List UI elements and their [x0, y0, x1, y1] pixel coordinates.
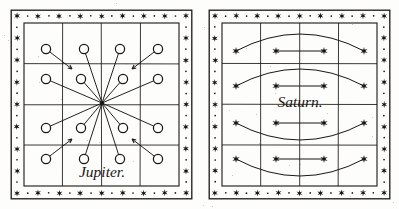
satellite-star [232, 155, 239, 163]
moon-circle [118, 123, 127, 132]
paper-speck [275, 93, 276, 94]
paper-speck [350, 196, 351, 197]
moon-circle [41, 44, 50, 53]
spoke-ssw [85, 103, 102, 155]
spoke-se [102, 103, 120, 124]
moon-circle [79, 44, 88, 53]
paper-speck [126, 64, 127, 65]
spoke-nnw [85, 53, 102, 103]
spoke-sse [102, 103, 119, 155]
paper-speck [352, 24, 353, 25]
spoke-sw [84, 103, 102, 124]
paper-speck [87, 140, 88, 141]
spoke-nne [102, 53, 119, 103]
moon-circle [41, 74, 50, 83]
spoke-e [102, 82, 120, 103]
moon-circle [76, 123, 85, 132]
paper-speck [229, 110, 230, 111]
paper-speck [61, 99, 62, 100]
satellite-star [360, 119, 367, 127]
saturn-drawing: Saturn. [208, 9, 391, 200]
spoke-wsw [50, 103, 102, 126]
spoke-wnw [50, 81, 102, 103]
paper-speck [259, 143, 260, 144]
paper-speck [83, 23, 84, 24]
paper-speck [300, 164, 301, 165]
paper-speck [372, 117, 373, 118]
paper-speck [212, 121, 213, 122]
satellite-star [360, 47, 367, 55]
paper-speck [204, 27, 205, 28]
paper-speck [372, 136, 373, 137]
spoke-w [84, 82, 102, 103]
paper-speck [393, 202, 394, 203]
arrow-bottom-left [50, 139, 72, 156]
paper-speck [362, 195, 363, 196]
spoke-ene [102, 81, 154, 103]
moon-circle [115, 44, 124, 53]
moon-circle [153, 154, 162, 163]
paper-speck [133, 161, 134, 162]
paper-speck [232, 175, 233, 176]
moon-circle [153, 44, 162, 53]
moon-circle [76, 74, 85, 83]
panel-saturn: Saturn. [208, 9, 391, 200]
satellite-star [360, 82, 367, 90]
arrow-top-left [50, 52, 72, 69]
moon-circle [41, 123, 50, 132]
spoke-ese [102, 103, 154, 126]
moon-circle [41, 154, 50, 163]
jupiter-drawing: Jupiter. [10, 9, 193, 200]
paper-speck [8, 40, 9, 41]
paper-speck [327, 113, 328, 114]
arrow-top-right [132, 52, 154, 69]
satellite-star [360, 155, 367, 163]
satellite-star [232, 82, 239, 90]
paper-speck [163, 9, 164, 10]
paper-speck [39, 82, 40, 83]
satellite-star [232, 47, 239, 55]
paper-speck [296, 18, 297, 19]
moon-circle [118, 74, 127, 83]
paper-speck [256, 114, 257, 115]
paper-speck [4, 35, 5, 36]
paper-speck [246, 48, 247, 49]
plate-sheet: Jupiter. Saturn. [0, 0, 399, 209]
paper-speck [270, 66, 271, 67]
paper-speck [289, 165, 290, 166]
paper-speck [316, 107, 317, 108]
paper-speck [38, 56, 39, 57]
satellite-star [232, 119, 239, 127]
paper-speck [99, 142, 100, 143]
panel-jupiter: Jupiter. [10, 9, 193, 200]
paper-speck [116, 3, 117, 4]
paper-speck [203, 205, 204, 206]
jupiter-label: Jupiter. [79, 163, 125, 180]
arrow-bottom-right [132, 139, 154, 156]
paper-speck [212, 206, 213, 207]
moon-circle [153, 74, 162, 83]
moon-circle [153, 123, 162, 132]
jupiter-center-hub [100, 101, 104, 105]
